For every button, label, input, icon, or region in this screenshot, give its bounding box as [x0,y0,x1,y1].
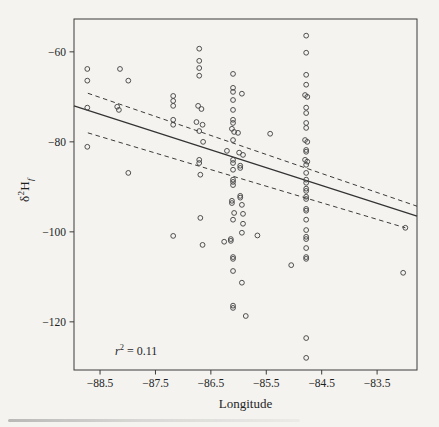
data-point [198,172,203,177]
data-point [304,228,309,233]
data-point [231,108,236,113]
data-point [201,139,206,144]
scan-artifact [8,419,300,422]
data-point [171,234,176,239]
data-point [197,161,202,166]
data-point [231,72,236,77]
data-point [401,270,406,275]
data-point [231,98,236,103]
data-point [239,280,244,285]
data-point [197,73,202,78]
data-point [232,211,237,216]
y-axis-label-sub: f [25,178,35,181]
data-point [194,120,199,125]
plot-frame [74,19,417,370]
data-point [200,122,205,127]
data-point [304,355,309,360]
data-point [197,66,202,71]
data-point [231,183,236,188]
y-tick-label: −100 [42,226,66,238]
data-point [268,131,273,136]
data-point [85,144,90,149]
data-point [304,171,309,176]
y-tick-label: −80 [48,136,66,148]
y-axis-label: δ2Hf [16,160,35,220]
data-point [171,122,176,127]
data-point [126,171,131,176]
y-axis-label-sup: 2 [16,191,26,196]
data-point [118,67,123,72]
ci_upper-line [88,93,417,206]
data-point [197,58,202,63]
data-point [304,105,309,110]
data-point [200,243,205,248]
data-point [225,148,230,153]
data-point [239,91,244,96]
data-point [197,46,202,51]
x-tick-label: −88.5 [87,377,114,389]
data-point [241,153,246,158]
data-point [198,216,203,221]
data-point [222,239,227,244]
data-point [171,117,176,122]
x-tick-label: −85.5 [253,377,280,389]
data-point [304,126,309,131]
x-tick-label: −83.5 [364,377,391,389]
data-point [304,33,309,38]
data-point [85,105,90,110]
data-point [171,99,176,104]
data-point [126,78,131,83]
data-point [231,269,236,274]
data-point [304,82,309,87]
data-point [255,233,260,238]
data-point [241,211,246,216]
data-point [231,217,236,222]
data-point [231,167,236,172]
scatter-figure: −88.5−87.5−86.5−85.5−84.5−83.5−60−80−100… [0,0,439,427]
data-point [304,180,309,185]
data-point [289,263,294,268]
x-tick-label: −84.5 [308,377,335,389]
regression-line [74,106,417,216]
data-point [304,246,309,251]
data-point [304,111,309,116]
data-point [243,314,248,319]
data-point [231,121,236,126]
y-tick-label: −120 [42,316,66,328]
x-axis-label: Longitude [74,396,417,412]
y-tick-label: −60 [48,46,66,58]
data-point [304,121,309,126]
data-point [304,50,309,55]
data-point [85,67,90,72]
r-squared-annotation: r2 = 0.11 [115,342,157,359]
data-point [85,78,90,83]
ci_lower-line [88,133,406,228]
x-tick-label: −86.5 [198,377,225,389]
data-point [171,94,176,99]
y-axis-label-main: H [17,181,32,191]
data-point [304,336,309,341]
r-squared-value: = 0.11 [124,344,157,358]
data-point [304,217,309,222]
y-axis-label-delta: δ [17,195,32,201]
data-point [231,138,236,143]
data-point [231,161,236,166]
scatter-plot-canvas: −88.5−87.5−86.5−85.5−84.5−83.5−60−80−100… [0,0,439,427]
x-tick-label: −87.5 [142,377,169,389]
data-point [304,72,309,77]
data-point [241,221,246,226]
data-point [239,230,244,235]
data-point [171,103,176,108]
data-point [199,107,204,112]
data-point [304,162,309,167]
data-point [239,202,244,207]
